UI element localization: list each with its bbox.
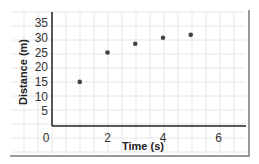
x-tick-label: 6 [215,131,222,145]
data-point [105,50,110,55]
y-tick-label: 15 [35,75,49,89]
data-point [161,36,166,41]
y-axis-label: Distance (m) [17,39,29,105]
y-tick-label: 20 [35,60,49,74]
y-tick-label: 35 [35,16,49,30]
scatter-chart: 5101520253035 0246 Time (s) Distance (m) [0,0,259,164]
y-tick-label: 10 [35,90,49,104]
x-axis-label: Time (s) [122,140,164,152]
y-tick-label: 30 [35,31,49,45]
y-tick-label: 25 [35,46,49,60]
data-point [188,33,193,38]
x-tick-label: 0 [43,131,50,145]
y-tick-label: 5 [41,104,48,118]
y-tick-labels: 5101520253035 [35,16,49,118]
data-point [133,41,138,46]
data-point [77,80,82,85]
x-tick-label: 2 [104,131,111,145]
